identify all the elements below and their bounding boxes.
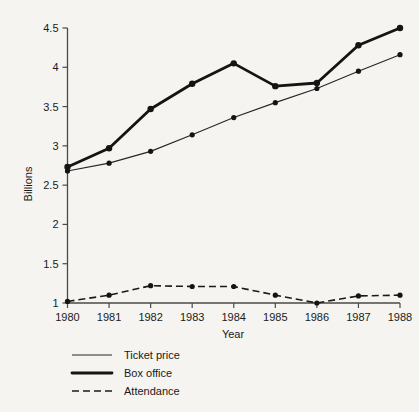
data-point-marker [64, 164, 70, 170]
data-point-marker [273, 100, 278, 105]
data-point-marker [231, 284, 236, 289]
chart-container: 11.522.533.544.5 19801981198219831984198… [0, 0, 419, 412]
y-tick-label: 4.5 [43, 22, 58, 34]
x-tick-label: 1982 [138, 311, 162, 323]
y-tick-label: 2.5 [43, 179, 58, 191]
data-point-marker [231, 60, 237, 66]
series-line-box-office [68, 28, 401, 167]
chart-legend: Ticket priceBox officeAttendance [72, 349, 180, 397]
x-tick-label: 1987 [346, 311, 370, 323]
data-point-marker [314, 80, 320, 86]
line-chart: 11.522.533.544.5 19801981198219831984198… [0, 0, 419, 412]
y-tick-label: 1 [52, 297, 58, 309]
data-point-marker [397, 52, 402, 57]
data-point-marker [190, 284, 195, 289]
y-tick-label: 1.5 [43, 258, 58, 270]
series-line-ticket-price [68, 55, 401, 171]
legend-label-attendance: Attendance [124, 385, 180, 397]
data-point-marker [356, 293, 361, 298]
data-point-marker [272, 83, 278, 89]
data-point-marker [190, 132, 195, 137]
y-tick-label: 4 [52, 61, 58, 73]
data-point-marker [106, 145, 112, 151]
data-point-markers [64, 25, 403, 306]
data-point-marker [355, 42, 361, 48]
legend-label-box-office: Box office [124, 367, 172, 379]
y-axis-title: Billions [22, 166, 34, 201]
y-axis-tick-labels: 11.522.533.544.5 [43, 22, 58, 309]
data-point-marker [397, 293, 402, 298]
x-tick-label: 1983 [180, 311, 204, 323]
data-point-marker [148, 149, 153, 154]
data-point-marker [106, 293, 111, 298]
data-series-group [68, 28, 401, 303]
legend-label-ticket-price: Ticket price [124, 349, 180, 361]
x-axis-ticks [68, 303, 401, 308]
data-point-marker [148, 283, 153, 288]
x-tick-label: 1984 [222, 311, 246, 323]
data-point-marker [147, 106, 153, 112]
x-axis-title: Year [222, 328, 245, 340]
y-tick-label: 3 [52, 140, 58, 152]
x-tick-label: 1988 [388, 311, 412, 323]
data-point-marker [273, 293, 278, 298]
data-point-marker [397, 25, 403, 31]
data-point-marker [106, 161, 111, 166]
data-point-marker [356, 69, 361, 74]
data-point-marker [65, 299, 70, 304]
x-tick-label: 1981 [97, 311, 121, 323]
x-tick-label: 1980 [55, 311, 79, 323]
data-point-marker [189, 81, 195, 87]
y-tick-label: 3.5 [43, 101, 58, 113]
data-point-marker [314, 86, 319, 91]
data-point-marker [314, 300, 319, 305]
y-tick-label: 2 [52, 218, 58, 230]
x-tick-label: 1986 [305, 311, 329, 323]
data-point-marker [231, 115, 236, 120]
x-tick-label: 1985 [263, 311, 287, 323]
x-axis-tick-labels: 198019811982198319841985198619871988 [55, 311, 412, 323]
